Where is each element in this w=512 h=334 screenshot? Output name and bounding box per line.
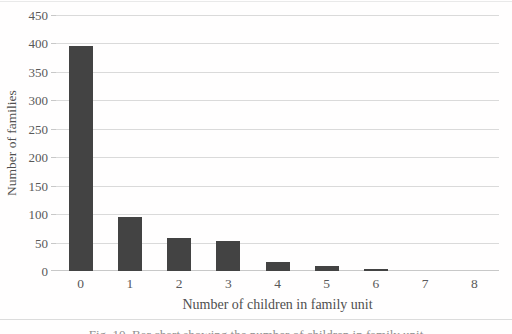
- bar-5: [315, 266, 339, 271]
- x-tick-label-4: 4: [258, 277, 298, 291]
- y-axis-tick-labels: 050100150200250300350400450: [10, 15, 48, 271]
- bar-0: [69, 46, 93, 271]
- y-tick-label-250: 250: [10, 123, 48, 136]
- gridline-y450: [56, 15, 499, 16]
- y-tick-mark: [51, 186, 56, 187]
- y-tick-mark: [51, 129, 56, 130]
- figure-caption-clipped: Fig. 10. Bar chart showing the number of…: [0, 327, 512, 334]
- x-tick-label-7: 7: [405, 277, 445, 291]
- y-tick-label-450: 450: [10, 9, 48, 22]
- y-tick-mark: [51, 243, 56, 244]
- y-tick-label-100: 100: [10, 208, 48, 221]
- y-tick-label-200: 200: [10, 151, 48, 164]
- plot-area: [56, 15, 499, 271]
- gridline-y400: [56, 43, 499, 44]
- y-tick-label-150: 150: [10, 180, 48, 193]
- caption-divider-line: [0, 319, 512, 320]
- bar-4: [266, 262, 290, 271]
- gridline-y200: [56, 157, 499, 158]
- gridline-y350: [56, 72, 499, 73]
- bar-3: [216, 241, 240, 271]
- y-tick-mark: [51, 72, 56, 73]
- bar-6: [364, 269, 388, 271]
- x-axis-tick-labels: 012345678: [56, 277, 499, 292]
- gridline-y300: [56, 100, 499, 101]
- x-tick-label-8: 8: [454, 277, 494, 291]
- y-tick-mark: [51, 43, 56, 44]
- gridline-y100: [56, 214, 499, 215]
- x-tick-label-2: 2: [159, 277, 199, 291]
- y-tick-mark: [51, 100, 56, 101]
- y-tick-label-300: 300: [10, 94, 48, 107]
- x-tick-label-3: 3: [208, 277, 248, 291]
- gridline-y150: [56, 186, 499, 187]
- x-tick-label-0: 0: [61, 277, 101, 291]
- y-tick-mark: [51, 15, 56, 16]
- x-tick-label-5: 5: [307, 277, 347, 291]
- y-tick-label-0: 0: [10, 265, 48, 278]
- y-tick-label-50: 50: [10, 237, 48, 250]
- x-tick-label-1: 1: [110, 277, 150, 291]
- y-tick-mark: [51, 214, 56, 215]
- y-tick-label-350: 350: [10, 66, 48, 79]
- gridline-y250: [56, 129, 499, 130]
- x-tick-label-6: 6: [356, 277, 396, 291]
- figure-page: Number of families 050100150200250300350…: [0, 0, 512, 334]
- y-tick-mark: [51, 157, 56, 158]
- page-top-edge-line: [0, 1, 512, 2]
- x-axis-title: Number of children in family unit: [56, 297, 499, 312]
- bar-1: [118, 217, 142, 271]
- bar-2: [167, 238, 191, 271]
- y-tick-label-400: 400: [10, 37, 48, 50]
